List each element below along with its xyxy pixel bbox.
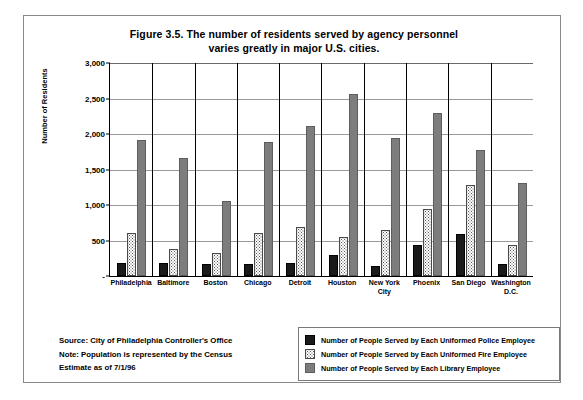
note-line: Note: Population is represented by the C…	[59, 348, 232, 362]
figure-title-line-2: varies greatly in major U.S. cities.	[79, 41, 509, 55]
legend-item[interactable]: Number of People Served by Each Uniforme…	[305, 347, 553, 361]
bar-police[interactable]	[329, 255, 338, 276]
bar-library[interactable]	[222, 201, 231, 276]
bar-group	[407, 63, 449, 276]
figure-title-line-1: Figure 3.5. The number of residents serv…	[79, 27, 509, 41]
y-tick-label: 3,000	[85, 59, 105, 68]
bar-library[interactable]	[264, 142, 273, 276]
bar-fire[interactable]	[423, 209, 432, 276]
bar-library[interactable]	[518, 183, 527, 276]
bar-police[interactable]	[371, 266, 380, 276]
bar-fire[interactable]	[466, 185, 475, 276]
y-tick-mark	[106, 169, 110, 170]
bar-library[interactable]	[349, 94, 358, 276]
legend-label: Number of People Served by Each Uniforme…	[321, 350, 527, 359]
bar-library[interactable]	[433, 113, 442, 276]
bar-group	[196, 63, 238, 276]
y-tick-label: 1,000	[85, 201, 105, 210]
bar-group	[322, 63, 364, 276]
bar-library[interactable]	[179, 158, 188, 276]
plot-area: 3,0002,5002,0001,5001,000500-	[109, 63, 533, 277]
x-axis-label: Phoenix	[405, 279, 447, 296]
bar-police[interactable]	[117, 263, 126, 276]
y-tick-label: 500	[92, 236, 105, 245]
y-tick-mark	[106, 134, 110, 135]
bar-fire[interactable]	[254, 233, 263, 276]
bar-group	[153, 63, 195, 276]
bar-police[interactable]	[456, 234, 465, 276]
bar-fire[interactable]	[169, 249, 178, 276]
bar-fire[interactable]	[508, 245, 517, 276]
y-tick-label: 2,000	[85, 130, 105, 139]
legend-item[interactable]: Number of People Served by Each Library …	[305, 361, 553, 375]
x-axis-label: San Diego	[448, 279, 490, 296]
y-tick-mark	[106, 276, 110, 277]
bar-police[interactable]	[286, 263, 295, 276]
bar-group	[238, 63, 280, 276]
x-axis-label: Chicago	[237, 279, 279, 296]
estimate-line: Estimate as of 7/1/96	[59, 361, 232, 375]
figure-frame: Figure 3.5. The number of residents serv…	[23, 15, 561, 383]
y-axis-title: Number of Residents	[40, 46, 49, 166]
bar-police[interactable]	[244, 264, 253, 276]
y-tick-label: 1,500	[85, 165, 105, 174]
bar-group	[449, 63, 491, 276]
bar-group	[492, 63, 533, 276]
source-line: Source: City of Philadelphia Controller'…	[59, 334, 232, 348]
x-axis-label: Boston	[194, 279, 236, 296]
bar-fire[interactable]	[127, 233, 136, 276]
chart-legend: Number of People Served by Each Uniforme…	[298, 327, 560, 381]
figure-title: Figure 3.5. The number of residents serv…	[79, 27, 509, 55]
bar-group	[365, 63, 407, 276]
x-axis-labels: PhiladelphiaBaltimoreBostonChicagoDetroi…	[110, 279, 532, 296]
bar-fire[interactable]	[381, 230, 390, 276]
y-tick-label: 2,500	[85, 94, 105, 103]
dotted-swatch	[305, 349, 315, 359]
legend-label: Number of People Served by Each Uniforme…	[321, 336, 535, 345]
x-axis-label: Washington D.C.	[490, 279, 532, 296]
bar-library[interactable]	[306, 126, 315, 276]
gray-swatch	[305, 363, 315, 373]
bar-group	[111, 63, 153, 276]
bar-police[interactable]	[413, 245, 422, 276]
bar-group	[280, 63, 322, 276]
y-tick-mark	[106, 205, 110, 206]
x-axis-label: Houston	[321, 279, 363, 296]
x-axis-label: Philadelphia	[110, 279, 152, 296]
legend-item[interactable]: Number of People Served by Each Uniforme…	[305, 333, 553, 347]
bar-police[interactable]	[159, 263, 168, 276]
y-tick-mark	[106, 98, 110, 99]
black-swatch	[305, 335, 315, 345]
x-axis-label: Baltimore	[152, 279, 194, 296]
y-tick-mark	[106, 240, 110, 241]
source-notes: Source: City of Philadelphia Controller'…	[59, 334, 232, 375]
legend-label: Number of People Served by Each Library …	[321, 364, 500, 373]
bar-fire[interactable]	[212, 253, 221, 276]
bar-library[interactable]	[476, 150, 485, 276]
bar-fire[interactable]	[296, 227, 305, 276]
y-tick-mark	[106, 63, 110, 64]
y-tick-label: -	[102, 272, 105, 281]
x-axis-label: Detroit	[279, 279, 321, 296]
bar-library[interactable]	[137, 140, 146, 276]
bar-police[interactable]	[498, 264, 507, 276]
bar-police[interactable]	[202, 264, 211, 276]
bar-fire[interactable]	[339, 237, 348, 276]
bar-library[interactable]	[391, 138, 400, 276]
bar-groups	[111, 63, 533, 276]
x-axis-label: New York City	[363, 279, 405, 296]
chart-plot-wrapper: Number of Residents 3,0002,5002,0001,500…	[44, 54, 544, 316]
